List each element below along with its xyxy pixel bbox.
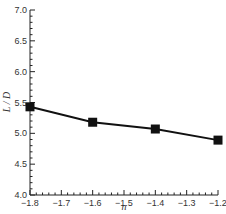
data-point-marker <box>151 125 160 134</box>
x-tick-label: −1.8 <box>21 198 39 208</box>
x-tick-label: −1.3 <box>178 198 196 208</box>
y-tick-label: 5.5 <box>14 98 27 108</box>
data-point-marker <box>26 102 35 111</box>
data-line <box>30 107 218 140</box>
x-tick-label: −1.6 <box>84 198 102 208</box>
x-tick-label: −1.2 <box>209 198 226 208</box>
x-tick-label: −1.7 <box>52 198 70 208</box>
y-tick-label: 6.0 <box>14 67 27 77</box>
y-tick-label: 4.5 <box>14 159 27 169</box>
line-chart: 4.04.55.05.56.06.57.0−1.8−1.7−1.6−1.5−1.… <box>0 0 226 214</box>
data-point-marker <box>214 136 223 145</box>
y-tick-label: 5.0 <box>14 128 27 138</box>
y-tick-label: 6.5 <box>14 36 27 46</box>
data-point-marker <box>88 118 97 127</box>
axes: 4.04.55.05.56.06.57.0−1.8−1.7−1.6−1.5−1.… <box>14 5 226 208</box>
y-tick-label: 7.0 <box>14 5 27 15</box>
y-axis-label: L / D <box>1 91 12 113</box>
x-axis-label: n <box>122 201 127 212</box>
plot-area <box>26 102 223 144</box>
x-tick-label: −1.4 <box>146 198 164 208</box>
